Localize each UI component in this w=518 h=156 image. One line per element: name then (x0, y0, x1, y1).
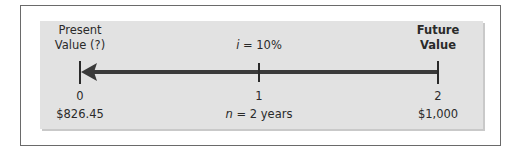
n-value: = 2 years (233, 107, 293, 121)
n-periods-label: n = 2 years (226, 107, 293, 122)
period-0-label: 0 (76, 89, 83, 104)
timeline-arrow (0, 0, 518, 156)
present-value-amount: $826.45 (56, 107, 104, 122)
period-2-label: 2 (434, 89, 441, 104)
future-value-amount: $1,000 (418, 107, 458, 122)
period-1-label: 1 (255, 89, 262, 104)
